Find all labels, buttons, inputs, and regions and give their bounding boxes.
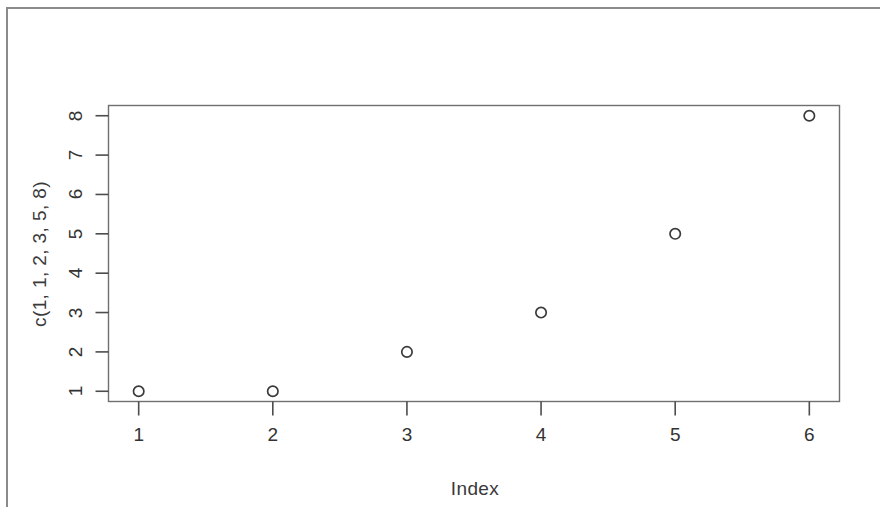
y-axis-title: c(1, 1, 2, 3, 5, 8) (29, 181, 51, 327)
data-point (804, 111, 814, 121)
x-tick-label: 3 (387, 424, 427, 446)
data-point (402, 347, 412, 357)
y-tick-label: 7 (65, 144, 87, 166)
data-point (268, 386, 278, 396)
plot-canvas (0, 0, 880, 526)
figure-page: 12345678 123456 c(1, 1, 2, 3, 5, 8) Inde… (0, 0, 880, 526)
y-tick-label: 4 (65, 262, 87, 284)
y-tick-label: 3 (65, 302, 87, 324)
data-point (133, 386, 143, 396)
x-tick-label: 2 (253, 424, 293, 446)
x-axis-ticks (139, 402, 810, 416)
y-tick-label: 5 (65, 223, 87, 245)
plot-frame (109, 106, 840, 402)
data-point (536, 307, 546, 317)
data-points (133, 111, 814, 397)
x-axis-title: Index (275, 478, 675, 500)
x-tick-label: 1 (119, 424, 159, 446)
y-tick-label: 6 (65, 183, 87, 205)
y-tick-label: 2 (65, 341, 87, 363)
data-point (670, 229, 680, 239)
x-tick-label: 4 (521, 424, 561, 446)
x-tick-label: 5 (655, 424, 695, 446)
scatter-plot: 12345678 123456 c(1, 1, 2, 3, 5, 8) Inde… (0, 0, 880, 526)
x-tick-label: 6 (789, 424, 829, 446)
y-tick-label: 8 (65, 105, 87, 127)
y-tick-label: 1 (65, 380, 87, 402)
y-axis-ticks (96, 116, 109, 392)
